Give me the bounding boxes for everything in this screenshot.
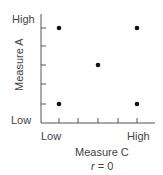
x-tick-label-high: High xyxy=(127,130,150,142)
y-tick-label-high: High xyxy=(12,13,35,25)
data-point xyxy=(135,102,140,107)
x-tick-label-low: Low xyxy=(41,130,61,142)
data-point xyxy=(96,63,101,68)
data-points xyxy=(57,26,140,107)
correlation-annotation: r = 0 xyxy=(91,160,113,172)
scatter-chart: High Low Low High Measure C Measure A r … xyxy=(0,0,163,175)
data-point xyxy=(57,102,62,107)
y-axis-title: Measure A xyxy=(13,38,25,91)
data-point xyxy=(135,26,140,31)
r-value: = 0 xyxy=(95,160,114,172)
x-ticks xyxy=(59,118,137,123)
data-point xyxy=(57,26,62,31)
y-tick-label-low: Low xyxy=(11,114,31,126)
x-axis-title: Measure C xyxy=(75,146,129,158)
y-ticks xyxy=(41,28,46,104)
